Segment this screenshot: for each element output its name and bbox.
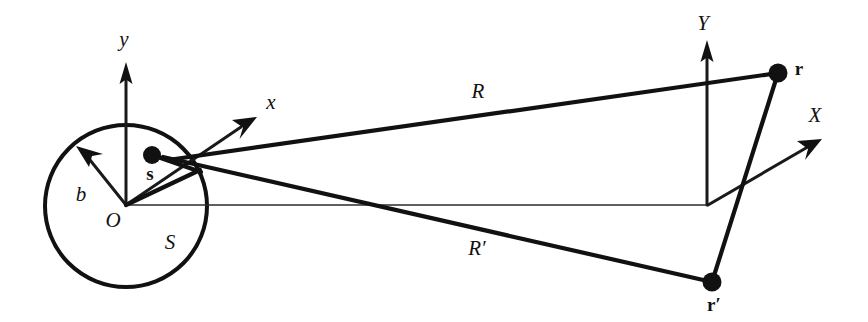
field-point-rprime-marker <box>703 273 722 292</box>
label-radius-b: b <box>76 182 87 206</box>
label-distance-R-prime: R′ <box>467 236 486 260</box>
figure-canvas: y x Y X O S b s r r′ R R′ <box>0 0 868 322</box>
geometry-diagram: y x Y X O S b s r r′ R R′ <box>0 0 868 322</box>
global-X-axis-line <box>708 148 806 205</box>
label-global-X-axis: X <box>808 103 823 127</box>
local-x-axis-arrowhead <box>232 117 257 139</box>
field-point-r-marker <box>769 64 788 83</box>
label-distance-R: R <box>471 79 485 103</box>
distance-R-prime-line <box>163 157 712 282</box>
label-global-Y-axis: Y <box>697 11 711 35</box>
source-point-marker <box>143 146 161 164</box>
label-source-point-s: s <box>146 163 153 184</box>
radius-vector-b-line <box>90 160 126 205</box>
label-region-S: S <box>165 230 176 254</box>
label-field-point-r: r <box>795 58 804 79</box>
label-origin: O <box>105 208 120 232</box>
label-field-point-rprime: r′ <box>707 294 721 315</box>
r-to-rprime-segment <box>712 73 778 282</box>
radius-vector-b-arrowhead <box>76 146 103 167</box>
origin-to-node-segment <box>126 170 200 205</box>
label-local-x-axis: x <box>265 90 276 114</box>
label-local-y-axis: y <box>117 27 129 51</box>
